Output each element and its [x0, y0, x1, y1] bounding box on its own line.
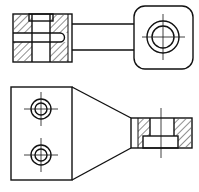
- plate-outline: [11, 87, 72, 180]
- top-view: [13, 6, 193, 69]
- hatch-areas: [14, 15, 68, 61]
- slot-end-arc: [60, 33, 64, 42]
- boss-outline: [134, 6, 193, 69]
- counterbore-section: [143, 136, 178, 148]
- front-view: [11, 87, 192, 180]
- section-hatch: [138, 119, 191, 147]
- taper-top-line: [72, 87, 131, 118]
- hole-centerlines: [24, 92, 58, 172]
- engineering-drawing: [0, 0, 199, 192]
- taper-bottom-line: [72, 148, 131, 180]
